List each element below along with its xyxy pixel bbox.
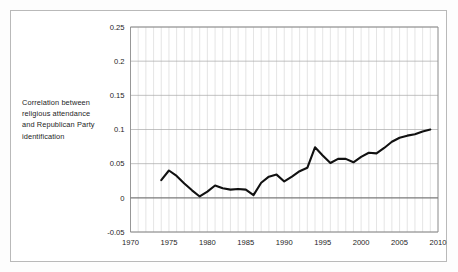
x-tick-label: 1995 bbox=[314, 238, 331, 247]
x-tick-label: 1980 bbox=[199, 238, 216, 247]
y-tick-label: 0 bbox=[120, 194, 124, 203]
y-tick-label: -0.05 bbox=[107, 228, 124, 237]
data-series-correlation bbox=[161, 130, 430, 197]
x-tick-label: 1985 bbox=[237, 238, 254, 247]
y-tick-labels: -0.0500.050.10.150.20.25 bbox=[107, 23, 124, 237]
series-line bbox=[161, 130, 430, 197]
x-tick-label: 1970 bbox=[122, 238, 139, 247]
plot-wrapper: -0.0500.050.10.150.20.25 197019751980198… bbox=[0, 0, 458, 272]
y-tick-label: 0.1 bbox=[114, 125, 125, 134]
x-tick-label: 2000 bbox=[353, 238, 370, 247]
y-tick-label: 0.25 bbox=[110, 23, 125, 32]
x-tick-label: 1975 bbox=[160, 238, 177, 247]
x-tick-label: 1990 bbox=[276, 238, 293, 247]
line-chart: -0.0500.050.10.150.20.25 197019751980198… bbox=[0, 0, 458, 272]
x-tick-label: 2010 bbox=[430, 238, 447, 247]
x-tick-label: 2005 bbox=[391, 238, 408, 247]
y-tick-label: 0.2 bbox=[114, 57, 125, 66]
x-tick-labels: 197019751980198519901995200020052010 bbox=[122, 238, 446, 247]
y-tick-label: 0.15 bbox=[110, 91, 125, 100]
y-tick-label: 0.05 bbox=[110, 159, 125, 168]
